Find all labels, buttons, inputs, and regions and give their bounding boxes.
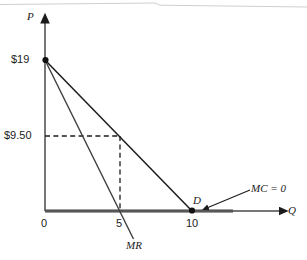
demand-intercept-point (189, 207, 195, 213)
mc-leader-line (208, 190, 250, 208)
marginal-cost-label: MC = 0 (251, 183, 286, 194)
quantity-tick-10-label: 10 (186, 218, 198, 229)
choke-price-point (42, 57, 48, 63)
price-axis-label: P (27, 11, 34, 22)
monopoly-price-label: $9.50 (4, 130, 32, 141)
marginal-revenue-label: MR (126, 240, 142, 251)
origin-label: 0 (41, 218, 47, 229)
demand-curve (45, 60, 192, 211)
figure-root: P Q $19 $9.50 0 5 10 D MR MC = 0 (0, 0, 307, 260)
demand-curve-label: D (193, 195, 201, 206)
quantity-axis-label: Q (288, 205, 296, 216)
quantity-tick-5-label: 5 (116, 218, 122, 229)
choke-price-label: $19 (11, 54, 29, 65)
scan-artifact-line (0, 3, 307, 7)
